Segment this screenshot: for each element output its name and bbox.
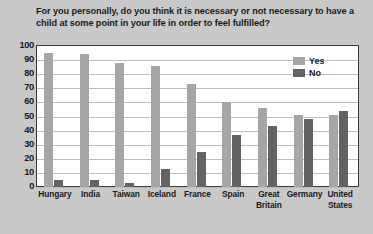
x-axis-labels: HungaryIndiaTaiwanIcelandFranceSpainGrea… — [37, 189, 358, 231]
bar-chart: For you personally, do you think it is n… — [0, 0, 373, 234]
bar-group — [108, 46, 144, 187]
y-axis-tick: 70 — [24, 82, 34, 92]
bar-no — [232, 135, 241, 187]
bar-no — [339, 111, 348, 187]
y-axis-tick: 60 — [24, 96, 34, 106]
x-axis-label: Iceland — [144, 189, 180, 200]
legend-swatch-icon — [293, 69, 305, 77]
bar-yes — [44, 53, 53, 187]
bar-group — [180, 46, 216, 187]
bar-no — [197, 152, 206, 187]
x-axis-label: Great Britain — [251, 189, 287, 210]
x-axis-label: Germany — [287, 189, 323, 200]
y-axis-tick: 80 — [24, 68, 34, 78]
x-axis-label: United States — [322, 189, 358, 210]
bar-yes — [80, 54, 89, 187]
y-axis-tick: 40 — [24, 125, 34, 135]
bar-yes — [329, 115, 338, 187]
bar-yes — [258, 108, 267, 187]
bar-yes — [151, 66, 160, 187]
y-axis: 1009080706050403020100 — [10, 40, 34, 192]
bar-group — [251, 46, 287, 187]
x-axis-label: Taiwan — [108, 189, 144, 200]
bar-yes — [294, 115, 303, 187]
bar-no — [161, 169, 170, 187]
bar-no — [268, 126, 277, 187]
bar-yes — [115, 63, 124, 187]
y-axis-tick: 20 — [24, 153, 34, 163]
legend-item: Yes — [293, 55, 351, 66]
chart-title: For you personally, do you think it is n… — [36, 6, 356, 29]
y-axis-tick: 0 — [29, 181, 34, 191]
y-axis-tick: 10 — [24, 167, 34, 177]
bar-no — [125, 183, 134, 187]
bar-no — [304, 119, 313, 187]
y-axis-tick: 100 — [19, 40, 34, 50]
y-axis-tick: 90 — [24, 54, 34, 64]
x-axis-label: Hungary — [37, 189, 73, 200]
x-axis-label: France — [180, 189, 216, 200]
bar-no — [54, 180, 63, 187]
bar-group — [215, 46, 251, 187]
bar-group — [73, 46, 109, 187]
bar-yes — [222, 102, 231, 187]
y-axis-tick: 50 — [24, 111, 34, 121]
legend-label: No — [309, 68, 321, 78]
bar-group — [37, 46, 73, 187]
bar-yes — [187, 84, 196, 187]
chart-legend: YesNo — [293, 55, 351, 79]
gridline — [37, 187, 358, 188]
legend-label: Yes — [309, 56, 325, 66]
x-axis-label: Spain — [215, 189, 251, 200]
y-axis-tick: 30 — [24, 139, 34, 149]
bar-group — [144, 46, 180, 187]
x-axis-label: India — [73, 189, 109, 200]
legend-swatch-icon — [293, 57, 305, 65]
legend-item: No — [293, 67, 351, 78]
bar-no — [90, 180, 99, 187]
